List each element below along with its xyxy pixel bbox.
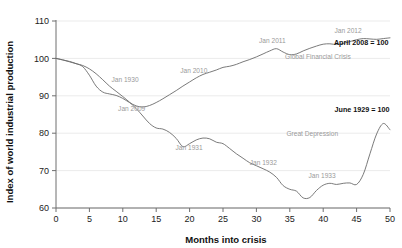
annotation-label: Jan 2009	[118, 105, 145, 112]
y-tick-label: 60	[39, 203, 49, 213]
annotation-label: Jan 2011	[259, 37, 286, 44]
annotation-label: Jan 2012	[335, 27, 362, 34]
annotation-label: April 2008 = 100	[334, 38, 389, 47]
x-tick-labels: 05101520253035404550	[53, 208, 395, 224]
y-tick-labels: 60708090100110	[34, 16, 56, 213]
series-line-1	[56, 38, 390, 107]
annotation-label: Jan 2010	[180, 67, 207, 74]
x-tick-label: 20	[185, 214, 195, 224]
annotation-label: Great Depression	[286, 130, 338, 138]
annotation-label: Jan 1933	[309, 172, 336, 179]
y-tick-label: 100	[34, 54, 49, 64]
x-tick-label: 5	[87, 214, 92, 224]
series-line-2	[56, 58, 390, 198]
x-tick-label: 15	[151, 214, 161, 224]
x-tick-label: 0	[53, 214, 58, 224]
y-tick-label: 70	[39, 166, 49, 176]
annotation-label: Global Financial Crisis	[285, 53, 351, 60]
x-tick-label: 45	[352, 214, 362, 224]
y-axis-title: Index of world industrial production	[4, 41, 15, 203]
y-tick-label: 80	[39, 128, 49, 138]
x-tick-label: 10	[118, 214, 128, 224]
x-tick-label: 50	[385, 214, 395, 224]
data-series	[56, 38, 390, 199]
gridlines	[56, 21, 390, 208]
annotation-label: Jan 1930	[111, 76, 138, 83]
y-tick-label: 110	[35, 16, 49, 26]
x-axis-title: Months into crisis	[185, 234, 266, 245]
annotation-label: Jan 1931	[176, 144, 203, 151]
industrial-production-line-chart: 60708090100110 05101520253035404550 Jan …	[0, 0, 402, 248]
chart-annotations: Jan 1930Jan 1931Jan 1932Jan 1933Jan 2009…	[111, 27, 389, 179]
annotation-label: Jan 1932	[250, 159, 277, 166]
chart-container: 60708090100110 05101520253035404550 Jan …	[0, 0, 402, 248]
x-tick-label: 35	[285, 214, 295, 224]
x-tick-label: 40	[318, 214, 328, 224]
annotation-label: June 1929 = 100	[335, 105, 390, 114]
y-tick-label: 90	[39, 91, 49, 101]
x-tick-label: 30	[251, 214, 261, 224]
x-tick-label: 25	[218, 214, 228, 224]
